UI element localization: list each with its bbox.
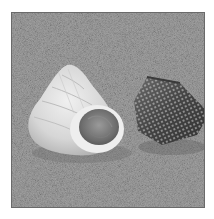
shell-photograph [11,12,205,208]
photo-illustration [12,13,204,207]
shell-aperture [70,105,124,153]
image-canvas [0,0,214,219]
